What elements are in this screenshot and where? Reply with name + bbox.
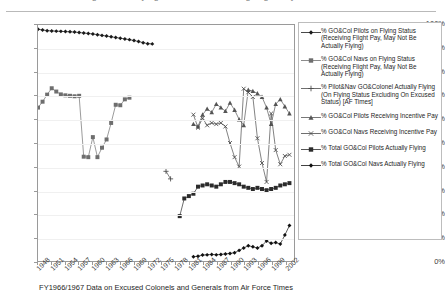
y-axis-tick-mark <box>34 238 37 239</box>
data-point-marker <box>205 253 209 257</box>
data-point-marker <box>63 30 67 34</box>
gridline <box>38 192 294 193</box>
series-line <box>193 226 289 257</box>
data-point-marker <box>123 37 127 41</box>
data-point-marker <box>283 104 288 108</box>
data-point-marker <box>100 146 104 150</box>
data-point-marker <box>109 35 113 39</box>
data-series <box>191 87 291 184</box>
data-point-marker <box>242 185 246 189</box>
gridline <box>38 144 294 145</box>
data-point-marker <box>77 31 81 35</box>
data-point-marker <box>205 106 210 110</box>
data-point-marker <box>278 97 283 101</box>
series-line <box>38 88 129 157</box>
data-point-marker <box>283 233 287 237</box>
legend-marker-square-icon <box>301 56 321 65</box>
data-point-marker <box>287 224 291 228</box>
y-axis-tick-mark <box>34 214 37 215</box>
data-point-marker <box>50 86 54 90</box>
data-point-marker <box>233 181 237 185</box>
data-point-marker <box>137 40 141 44</box>
data-point-marker <box>278 242 282 246</box>
data-point-marker <box>214 253 218 257</box>
gridline <box>38 215 294 216</box>
data-point-marker <box>219 121 223 125</box>
data-point-marker <box>237 248 241 252</box>
data-point-marker <box>214 185 218 189</box>
legend-item[interactable]: % Pilot&Nav GO&Colonel Actually Flying (… <box>301 83 438 105</box>
legend-item[interactable]: % Total GO&Col Pilots Actually Flying <box>301 144 438 154</box>
data-point-marker <box>163 169 168 174</box>
data-point-marker <box>274 186 278 190</box>
data-point-marker <box>118 36 122 40</box>
y-axis-tick-label: 0% <box>412 258 445 266</box>
data-point-marker <box>146 42 150 46</box>
data-point-marker <box>219 182 223 186</box>
data-point-marker <box>187 194 191 198</box>
data-point-marker <box>283 182 287 186</box>
data-point-marker <box>68 30 72 34</box>
data-point-marker <box>278 162 282 166</box>
data-point-marker <box>223 124 227 128</box>
data-series <box>191 224 291 259</box>
data-point-marker <box>150 42 154 46</box>
data-point-marker <box>214 102 219 106</box>
legend-item[interactable]: % GO&Col Pilots Receiving Incentive Pay <box>301 112 438 122</box>
data-point-marker <box>233 251 237 255</box>
data-point-marker <box>201 183 205 187</box>
legend-item[interactable]: % GO&Col Pilots on Flying Status (Receiv… <box>301 27 438 49</box>
gridline <box>38 49 294 50</box>
plot-area <box>37 24 295 262</box>
data-point-marker <box>118 103 122 107</box>
legend-item[interactable]: % Total GO&Col Navs Actually Flying <box>301 160 438 170</box>
legend-item[interactable]: % GO&Col Navs on Flying Status (Receivin… <box>301 55 438 77</box>
data-point-marker <box>141 41 145 45</box>
data-point-marker <box>73 30 77 34</box>
y-axis-tick-mark <box>34 95 37 96</box>
series-line <box>166 171 171 179</box>
data-point-marker <box>168 176 173 181</box>
data-series <box>163 169 173 182</box>
gridline <box>38 73 294 74</box>
data-point-marker <box>59 29 63 33</box>
data-point-marker <box>91 32 95 36</box>
data-point-marker <box>269 187 273 191</box>
legend-marker-triangle-icon <box>301 113 321 122</box>
data-point-marker <box>114 36 118 40</box>
legend-marker-plus-icon <box>301 84 321 93</box>
data-point-marker <box>246 244 250 248</box>
legend-item-label: % Total GO&Col Navs Actually Flying <box>321 160 438 167</box>
data-point-marker <box>41 100 45 104</box>
data-point-marker <box>191 122 196 126</box>
data-point-marker <box>209 110 214 114</box>
data-point-marker <box>251 187 255 191</box>
chart-legend: % GO&Col Pilots on Flying Status (Receiv… <box>298 22 442 240</box>
data-point-marker <box>191 113 195 117</box>
data-point-marker <box>82 31 86 35</box>
data-point-marker <box>114 103 118 107</box>
data-point-marker <box>105 34 109 38</box>
data-point-marker <box>232 108 237 112</box>
data-point-marker <box>255 186 259 190</box>
y-axis-tick-mark <box>34 167 37 168</box>
data-point-marker <box>264 105 269 109</box>
chart-screenshot: of Pilots and Navigators on Flying Statu… <box>0 0 445 300</box>
data-point-marker <box>219 105 224 109</box>
legend-item-label: % GO&Col Pilots Receiving Incentive Pay <box>321 112 438 119</box>
data-point-marker <box>242 246 246 250</box>
legend-item-label: % Pilot&Nav GO&Colonel Actually Flying (… <box>321 83 438 105</box>
data-point-marker <box>86 155 90 159</box>
data-point-marker <box>228 251 232 255</box>
data-point-marker <box>82 155 86 159</box>
series-layer <box>38 25 294 261</box>
cutoff-header-text: of Pilots and Navigators on Flying Statu… <box>18 0 295 1</box>
data-point-marker <box>274 241 278 245</box>
header-divider <box>6 11 436 12</box>
data-point-marker <box>105 137 109 141</box>
data-point-marker <box>219 252 223 256</box>
legend-item[interactable]: % GO&Col Navs Receiving Incentive Pay <box>301 128 438 138</box>
data-point-marker <box>287 181 291 185</box>
data-point-marker <box>233 155 237 159</box>
data-point-marker <box>255 246 259 250</box>
